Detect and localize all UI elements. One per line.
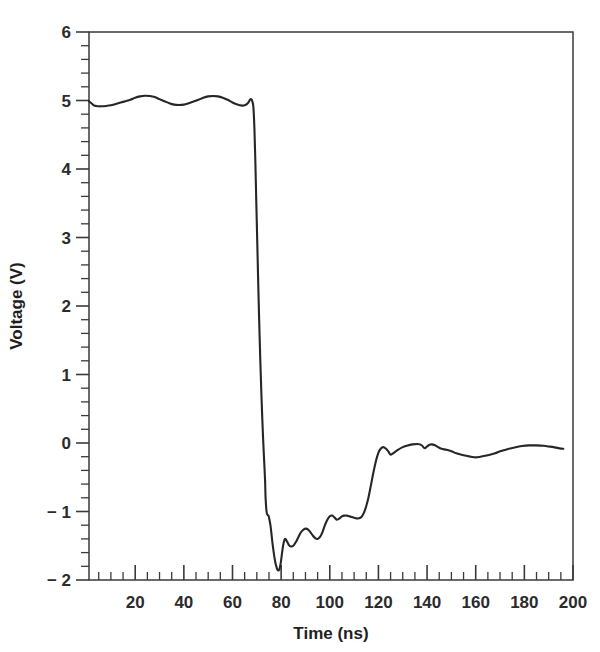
x-tick-label: 180 xyxy=(510,593,538,612)
chart-background xyxy=(0,0,600,652)
y-tick-label: − 1 xyxy=(47,503,71,522)
y-tick-label: 0 xyxy=(62,434,71,453)
y-tick-label: − 2 xyxy=(47,571,71,590)
x-tick-label: 20 xyxy=(126,593,145,612)
x-tick-label: 80 xyxy=(272,593,291,612)
x-tick-label: 40 xyxy=(174,593,193,612)
y-tick-label: 5 xyxy=(62,92,71,111)
y-tick-label: 1 xyxy=(62,366,71,385)
x-tick-label: 200 xyxy=(559,593,587,612)
y-tick-label: 6 xyxy=(62,23,71,42)
figure-container: − 2− 10123456 20406080100120140160180200… xyxy=(0,0,600,652)
x-tick-label: 120 xyxy=(364,593,392,612)
x-tick-label: 160 xyxy=(462,593,490,612)
voltage-time-line-chart: − 2− 10123456 20406080100120140160180200… xyxy=(0,0,600,652)
x-tick-label: 140 xyxy=(413,593,441,612)
y-tick-label: 4 xyxy=(62,160,72,179)
x-axis-title: Time (ns) xyxy=(293,624,368,643)
y-tick-label: 2 xyxy=(62,297,71,316)
y-tick-label: 3 xyxy=(62,229,71,248)
x-tick-label: 100 xyxy=(316,593,344,612)
x-tick-label: 60 xyxy=(223,593,242,612)
y-axis-title: Voltage (V) xyxy=(7,262,26,350)
